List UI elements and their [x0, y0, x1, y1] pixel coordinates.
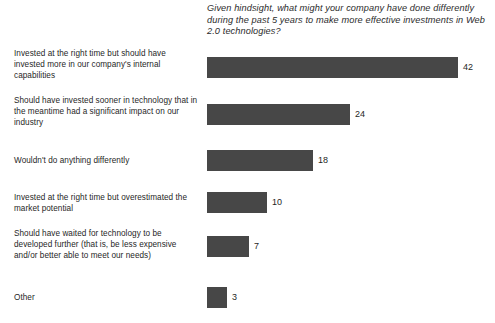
bar-fill [207, 192, 267, 213]
bar-fill [207, 150, 313, 171]
category-label: Wouldn't do anything differently [14, 155, 199, 166]
bar-fill [207, 104, 350, 125]
category-label: Other [14, 292, 199, 303]
bar-fill [207, 287, 227, 308]
bar-value-label: 10 [267, 192, 282, 213]
bar-value-label: 24 [350, 104, 365, 125]
chart-title: Given hindsight, what might your company… [207, 3, 487, 38]
bar-item[interactable]: 10 [207, 192, 267, 213]
bar-value-label: 3 [227, 287, 237, 308]
category-label: Invested at the right time but should ha… [14, 48, 199, 82]
category-label: Invested at the right time but overestim… [14, 192, 199, 214]
category-label: Should have waited for technology to be … [14, 228, 199, 262]
bar-item[interactable]: 18 [207, 150, 313, 171]
bar-fill [207, 236, 249, 257]
bar-item[interactable]: 24 [207, 104, 350, 125]
bar-item[interactable]: 7 [207, 236, 249, 257]
bar-fill [207, 57, 458, 78]
category-label: Should have invested sooner in technolog… [14, 95, 199, 129]
bar-item[interactable]: 3 [207, 287, 227, 308]
bar-value-label: 42 [458, 57, 473, 78]
bar-value-label: 18 [313, 150, 328, 171]
bar-chart: Given hindsight, what might your company… [0, 0, 495, 323]
bar-item[interactable]: 42 [207, 57, 458, 78]
bar-value-label: 7 [249, 236, 259, 257]
